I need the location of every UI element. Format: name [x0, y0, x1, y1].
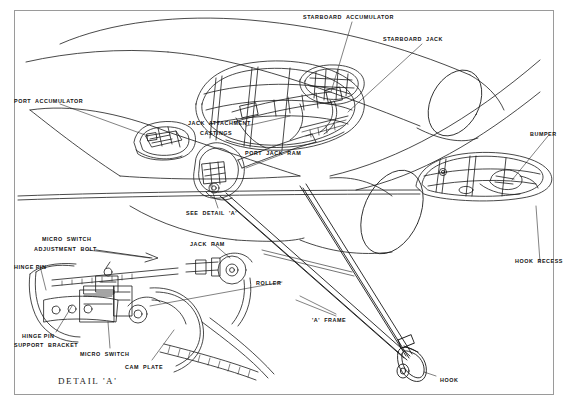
label-micro-switch-adjustment-bolt-line2: ADJUSTMENT BOLT: [34, 246, 97, 253]
label-hook-recess: HOOK RECESS: [515, 258, 563, 265]
label-jack-attachment-castings-line1: JACK ATTACHMENT: [188, 120, 251, 127]
label-bumper: BUMPER: [530, 131, 557, 138]
bumper-hook-recess-assembly: [416, 152, 552, 201]
label-a-frame: 'A' FRAME: [312, 317, 346, 324]
leader-lines: [40, 22, 548, 376]
hook-assembly: [397, 335, 426, 382]
port-accumulator-assembly: [134, 121, 195, 160]
aircraft-outline: [18, 18, 540, 264]
diagram-page: STARBOARD ACCUMULATOR STARBOARD JACK POR…: [0, 0, 568, 420]
label-jack-ram: JACK RAM: [190, 241, 225, 248]
label-hinge-pin-support-bracket-line2: SUPPORT BRACKET: [14, 342, 78, 349]
label-hook: HOOK: [440, 377, 458, 384]
label-see-detail-a: SEE DETAIL 'A': [186, 210, 237, 217]
label-micro-switch-adjustment-bolt-line1: MICRO SWITCH: [42, 236, 91, 243]
detail-a-mechanism: [29, 250, 274, 380]
label-hinge-pin: HINGE PIN: [14, 264, 47, 271]
label-roller: ROLLER: [256, 280, 281, 287]
label-cam-plate: CAM PLATE: [125, 364, 163, 371]
label-hinge-pin-support-bracket-line1: HINGE PIN: [22, 333, 55, 340]
detail-a-title: DETAIL 'A': [58, 376, 117, 386]
label-port-accumulator: PORT ACCUMULATOR: [14, 98, 83, 105]
label-starboard-jack: STARBOARD JACK: [383, 36, 443, 43]
label-starboard-accumulator: STARBOARD ACCUMULATOR: [303, 14, 394, 21]
label-port-jack-ram: PORT JACK RAM: [245, 150, 301, 157]
a-frame-struts: [220, 184, 412, 360]
label-jack-attachment-castings-line2: CASTINGS: [200, 130, 232, 137]
label-micro-switch: MICRO SWITCH: [80, 351, 129, 358]
